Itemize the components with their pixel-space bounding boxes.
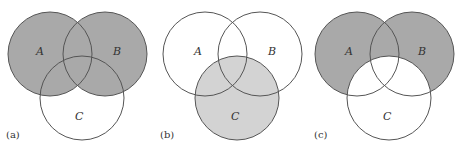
set-a-label: A bbox=[344, 45, 353, 58]
set-b-label: B bbox=[112, 45, 121, 58]
set-c-label: C bbox=[383, 110, 392, 123]
panel-a: A B C (a) bbox=[6, 12, 147, 140]
panel-b: A B C (b) bbox=[160, 12, 302, 140]
panel-label-c: (c) bbox=[314, 129, 328, 140]
venn-diagrams-svg: A B C (a) A B C (b) A B C bbox=[0, 0, 462, 150]
set-a-label: A bbox=[35, 45, 44, 58]
set-b-label: B bbox=[417, 45, 426, 58]
panel-label-a: (a) bbox=[6, 129, 20, 140]
panel-c: A B C (c) bbox=[314, 12, 454, 140]
set-b-label: B bbox=[267, 45, 276, 58]
set-c-label: C bbox=[75, 110, 84, 123]
set-c-label: C bbox=[231, 110, 240, 123]
venn-diagram-figure: A B C (a) A B C (b) A B C bbox=[0, 0, 462, 150]
set-a-label: A bbox=[193, 45, 202, 58]
panel-label-b: (b) bbox=[160, 129, 174, 140]
